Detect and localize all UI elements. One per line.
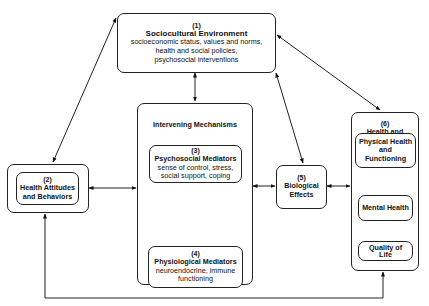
box-title: Mental Health [362,204,409,213]
box-line: psychosocial interventions [155,56,239,65]
quality-of-life-box: Quality of Life [358,241,413,261]
health-attitudes-box: (2) Health Attitudes and Behaviors [16,172,79,205]
box-title: Intervening Mechanisms [138,121,252,130]
physical-health-box: Physical Health and Functioning [355,133,416,168]
biological-effects-box: (5) Biological Effects [276,165,327,209]
sociocultural-environment-box: (1) Sociocultural Environment socioecono… [117,13,276,73]
physiological-mediators-box: (4) Physiological Mediators neuroendocri… [148,246,243,288]
box-title-line: and Behaviors [23,193,73,202]
psychosocial-mediators-box: (3) Psychosocial Mediators sense of cont… [149,145,242,183]
box-title-line: Functioning [365,155,406,164]
box-title-line: Effects [290,191,314,200]
box-title-line: Life [379,251,392,259]
box-line: social support, coping [161,172,231,181]
box-line: functioning [178,275,213,284]
mental-health-box: Mental Health [358,195,413,221]
